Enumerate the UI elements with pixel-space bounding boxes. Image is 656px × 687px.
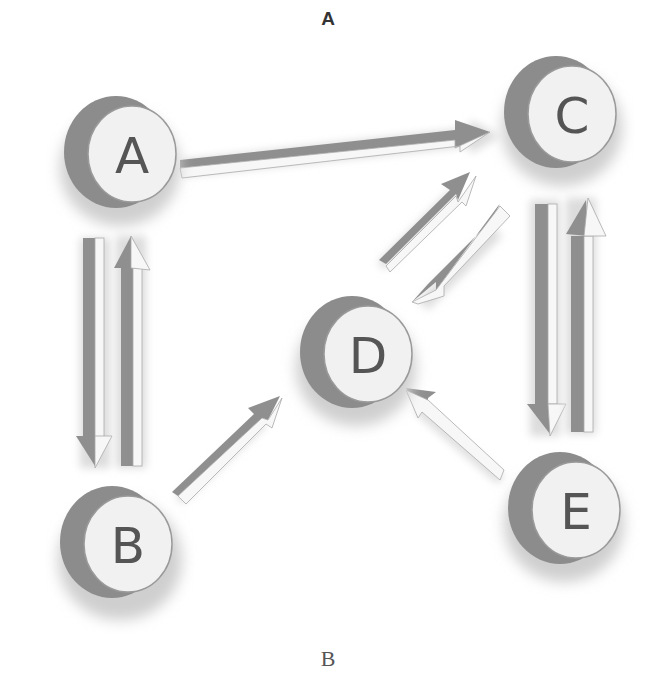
edge-a-to-c — [180, 120, 500, 178]
node-label-d: D — [349, 327, 388, 385]
node-d: D — [296, 296, 416, 426]
caption-bottom: B — [0, 646, 656, 672]
edge-b-to-a — [114, 236, 150, 468]
edge-e-to-d — [406, 388, 504, 484]
node-e: E — [504, 452, 624, 582]
node-label-c: C — [555, 87, 590, 145]
edge-a-to-b — [76, 238, 112, 468]
node-label-e: E — [560, 483, 592, 541]
edge-e-to-c — [566, 198, 606, 434]
node-label-b: B — [111, 517, 145, 575]
node-b: B — [58, 486, 182, 620]
node-a: A — [60, 96, 180, 226]
graph-diagram: A C D B E — [0, 0, 656, 687]
node-c: C — [502, 56, 622, 186]
edge-b-to-d — [172, 396, 282, 504]
node-label-a: A — [115, 127, 149, 185]
edge-c-to-e — [527, 200, 566, 436]
